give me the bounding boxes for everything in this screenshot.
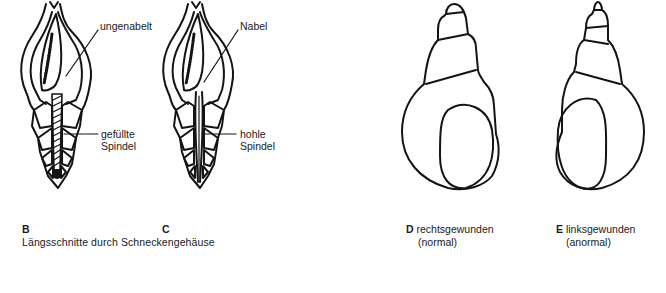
- label-spindel-b: Spindel: [101, 140, 136, 152]
- shell-section-b: [21, 2, 98, 188]
- label-linksgewunden: linksgewunden: [566, 223, 635, 235]
- label-ungenabelt: ungenabelt: [100, 20, 152, 32]
- label-nabel: Nabel: [240, 20, 267, 32]
- label-anormal: (anormal): [566, 236, 611, 248]
- caption-bc: Längsschnitte durch Schneckengehäuse: [22, 236, 215, 248]
- caption-d: D rechtsgewunden: [406, 223, 494, 235]
- figure-letter-e: E: [556, 223, 563, 235]
- label-spindel-c: Spindel: [240, 140, 275, 152]
- label-rechtsgewunden: rechtsgewunden: [417, 223, 494, 235]
- shell-section-c: [163, 2, 238, 188]
- caption-e: E linksgewunden: [556, 223, 635, 235]
- shell-sinistral-e: [556, 2, 644, 189]
- figure-letter-c: C: [162, 223, 170, 235]
- figure-letter-b: B: [22, 223, 30, 235]
- label-gefuellte: gefüllte: [101, 128, 135, 140]
- illustration: [0, 0, 666, 293]
- shell-dextral-d: [402, 4, 499, 189]
- label-hohle: hohle: [240, 128, 266, 140]
- figure-letter-d: D: [406, 223, 414, 235]
- label-normal: (normal): [418, 236, 457, 248]
